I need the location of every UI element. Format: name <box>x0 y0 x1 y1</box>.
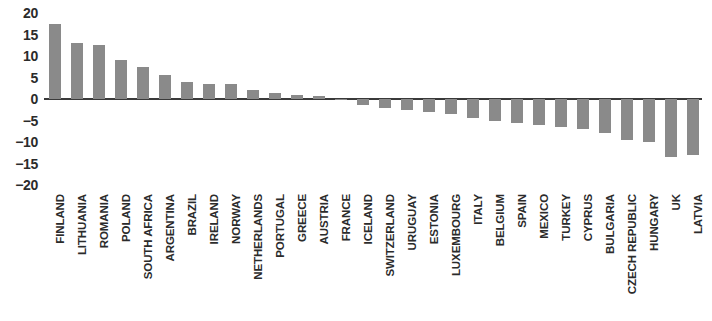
x-axis-tick: POLAND <box>110 190 132 321</box>
x-axis-tick-label: LUXEMBOURG <box>451 194 463 276</box>
x-axis-tick-label: CZECH REPUBLIC <box>627 194 639 294</box>
x-axis-tick-label: UK <box>671 194 683 210</box>
bar <box>599 99 612 133</box>
x-axis-tick-label: BELGIUM <box>495 194 507 246</box>
y-axis: 20151050−5−10−15−20 <box>0 0 44 321</box>
y-axis-tick-label: 20 <box>23 6 38 20</box>
bar <box>445 99 458 114</box>
x-axis-tick: ARGENTINA <box>154 190 176 321</box>
y-axis-tick-label: −10 <box>15 135 38 149</box>
bar <box>489 99 502 121</box>
x-axis: FINLANDLITHUANIAROMANIAPOLANDSOUTH AFRIC… <box>44 190 704 321</box>
bar <box>401 99 414 110</box>
bar <box>181 82 194 99</box>
x-axis-tick-label: ICELAND <box>363 194 375 244</box>
x-axis-tick: ESTONIA <box>418 190 440 321</box>
x-axis-tick: ROMANIA <box>88 190 110 321</box>
bar <box>511 99 524 123</box>
x-axis-tick-label: ESTONIA <box>429 194 441 244</box>
bar <box>269 93 282 99</box>
bar <box>203 84 216 99</box>
x-axis-tick-label: ITALY <box>473 194 485 225</box>
bar <box>687 99 700 155</box>
x-axis-tick: CYPRUS <box>572 190 594 321</box>
bar <box>247 90 260 99</box>
x-axis-tick-label: HUNGARY <box>649 194 661 251</box>
bar <box>357 99 370 105</box>
x-axis-tick-label: SWITZERLAND <box>385 194 397 277</box>
x-axis-tick-label: SOUTH AFRICA <box>143 194 155 279</box>
x-axis-tick-label: CYPRUS <box>583 194 595 241</box>
x-axis-tick-label: MEXICO <box>539 194 551 239</box>
x-axis-tick-label: ROMANIA <box>99 194 111 248</box>
x-axis-tick: LATVIA <box>682 190 704 321</box>
bar <box>313 96 326 99</box>
x-axis-tick: LUXEMBOURG <box>440 190 462 321</box>
y-axis-tick-label: 0 <box>31 92 39 106</box>
bar <box>555 99 568 127</box>
x-axis-tick: URUGUAY <box>396 190 418 321</box>
bar <box>665 99 678 157</box>
y-axis-tick-label: −20 <box>15 178 38 192</box>
y-axis-tick-label: −5 <box>23 114 38 128</box>
x-axis-tick-label: FRANCE <box>341 194 353 241</box>
bar <box>423 99 436 112</box>
x-axis-tick-label: URUGUAY <box>407 194 419 250</box>
bar <box>49 24 62 99</box>
bar <box>379 99 392 108</box>
bar <box>291 95 304 99</box>
x-axis-tick-label: BRAZIL <box>187 194 199 236</box>
x-axis-tick: AUSTRIA <box>308 190 330 321</box>
x-axis-tick: ITALY <box>462 190 484 321</box>
x-axis-tick: UK <box>660 190 682 321</box>
x-axis-tick: BULGARIA <box>594 190 616 321</box>
x-axis-tick: IRELAND <box>198 190 220 321</box>
y-axis-tick-label: 5 <box>31 71 39 85</box>
x-axis-tick-label: AUSTRIA <box>319 194 331 244</box>
x-axis-tick: BRAZIL <box>176 190 198 321</box>
x-axis-tick: ICELAND <box>352 190 374 321</box>
y-axis-tick-label: −15 <box>15 157 38 171</box>
x-axis-tick: FINLAND <box>44 190 66 321</box>
x-axis-tick-label: LITHUANIA <box>77 194 89 255</box>
bar <box>71 43 84 99</box>
x-axis-tick: HUNGARY <box>638 190 660 321</box>
y-axis-tick-label: 10 <box>23 49 38 63</box>
y-axis-tick-label: 15 <box>23 28 38 42</box>
bar <box>621 99 634 140</box>
x-axis-tick: CZECH REPUBLIC <box>616 190 638 321</box>
bar <box>577 99 590 129</box>
x-axis-tick-label: PORTUGAL <box>275 194 287 258</box>
x-axis-tick-label: TURKEY <box>561 194 573 241</box>
x-axis-tick-label: ARGENTINA <box>165 194 177 261</box>
x-axis-tick: PORTUGAL <box>264 190 286 321</box>
bar <box>467 99 480 118</box>
x-axis-tick: NORWAY <box>220 190 242 321</box>
bar-chart: 20151050−5−10−15−20 FINLANDLITHUANIAROMA… <box>0 0 712 321</box>
x-axis-tick-label: FINLAND <box>55 194 67 244</box>
x-axis-tick: SOUTH AFRICA <box>132 190 154 321</box>
x-axis-tick: NETHERLANDS <box>242 190 264 321</box>
bar <box>643 99 656 142</box>
x-axis-tick-label: LATVIA <box>693 194 705 234</box>
bar <box>225 84 238 99</box>
x-axis-tick: TURKEY <box>550 190 572 321</box>
x-axis-tick: MEXICO <box>528 190 550 321</box>
bar <box>137 67 150 99</box>
x-axis-tick-label: NETHERLANDS <box>253 194 265 280</box>
bar <box>115 60 128 99</box>
x-axis-tick-label: SPAIN <box>517 194 529 228</box>
x-axis-tick-label: NORWAY <box>231 194 243 244</box>
x-axis-tick: BELGIUM <box>484 190 506 321</box>
bar <box>533 99 546 125</box>
bar <box>93 45 106 99</box>
x-axis-tick: FRANCE <box>330 190 352 321</box>
bar <box>335 99 348 100</box>
x-axis-tick: SWITZERLAND <box>374 190 396 321</box>
plot-area <box>44 0 704 190</box>
x-axis-tick: LITHUANIA <box>66 190 88 321</box>
x-axis-tick-label: GREECE <box>297 194 309 242</box>
x-axis-tick: GREECE <box>286 190 308 321</box>
x-axis-tick-label: POLAND <box>121 194 133 242</box>
x-axis-tick-label: BULGARIA <box>605 194 617 254</box>
